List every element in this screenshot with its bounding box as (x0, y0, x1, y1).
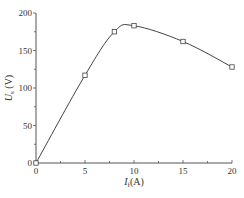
y-axis-label: Us (V) (3, 75, 16, 101)
x-tick-label: 15 (179, 166, 189, 176)
data-point-marker (230, 65, 234, 69)
x-axis-ticks: 05101520 (34, 160, 237, 176)
y-tick-label: 150 (19, 46, 33, 56)
y-tick-label: 50 (23, 121, 33, 131)
x-axis-label: If(A) (123, 176, 144, 189)
x-tick-label: 10 (130, 166, 140, 176)
data-curve (36, 25, 232, 163)
data-point-marker (132, 24, 136, 28)
x-tick-label: 5 (83, 166, 88, 176)
x-tick-label: 20 (228, 166, 238, 176)
y-tick-label: 200 (19, 8, 33, 18)
plot-area: 050100150200 05101520 (19, 8, 238, 176)
y-tick-label: 100 (19, 83, 33, 93)
chart: 050100150200 05101520 If(A) Us (V) (0, 0, 244, 198)
y-axis-ticks: 050100150200 (19, 8, 37, 168)
data-markers (34, 24, 234, 166)
data-point-marker (83, 73, 87, 77)
data-point-marker (181, 39, 185, 43)
x-tick-label: 0 (34, 166, 39, 176)
data-point-marker (34, 161, 38, 165)
data-point-marker (112, 30, 116, 34)
y-tick-label: 0 (28, 158, 33, 168)
